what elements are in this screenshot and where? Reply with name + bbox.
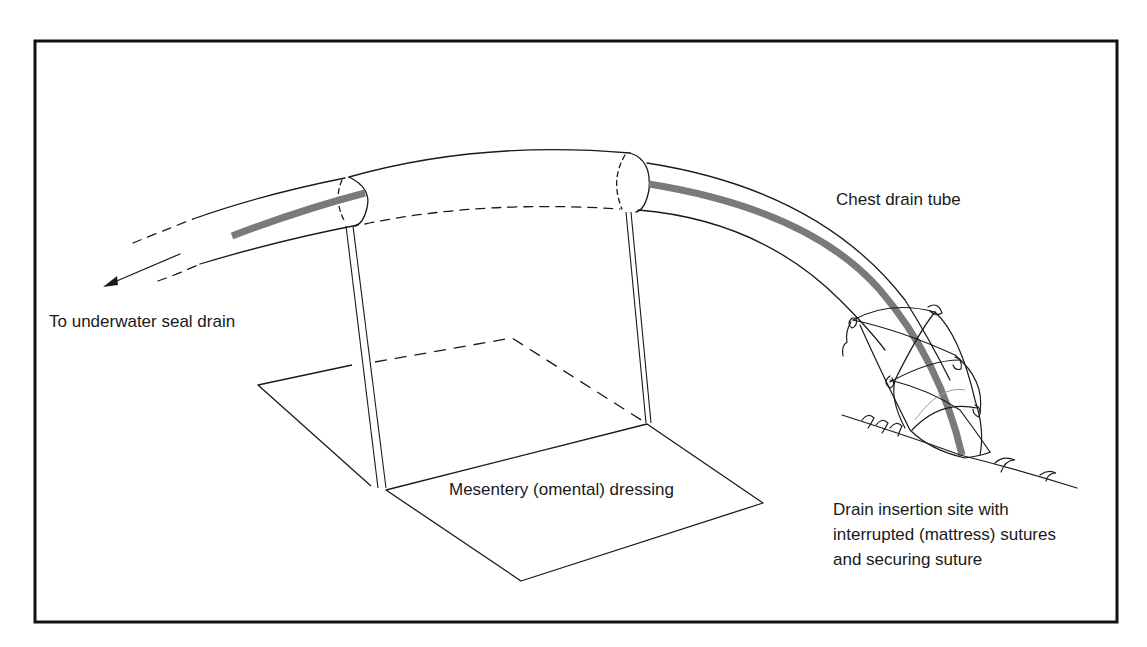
label-underwater-seal-drain: To underwater seal drain [49,311,235,332]
label-line: Drain insertion site with [833,497,1056,522]
suture-knot [928,305,942,315]
suture-loop [853,308,982,456]
sleeve-right-back-cap [617,155,625,209]
dressing-front-plane [386,424,763,581]
sleeve-right-front-cap [630,153,649,212]
label-line: interrupted (mattress) sutures [833,522,1056,547]
dressing-back-dashed [375,338,646,423]
label-chest-drain-tube: Chest drain tube [836,189,961,210]
support-right-a [626,212,646,423]
label-mesentery-dressing: Mesentery (omental) dressing [449,479,674,500]
support-left-a [346,226,378,488]
tube-left-bottom-dashed [158,264,200,281]
diagram-canvas: Chest drain tube To underwater seal drai… [0,0,1147,647]
tube-left-bottom-edge [200,225,358,264]
tube-core-right [649,184,962,455]
support-left-b [353,226,386,488]
sleeve-top-edge [349,150,630,177]
suture-loop [912,406,977,430]
label-drain-insertion-site: Drain insertion site with interrupted (m… [833,497,1056,572]
sleeve-bottom-dashed [365,207,620,224]
sleeve-left-front-cap [349,177,368,226]
suture-free-end [843,322,852,356]
flow-arrow-line [112,254,180,283]
dressing-left-flap [258,365,371,486]
arrow-head-icon [103,276,118,287]
support-right-b [631,212,651,423]
tube-core-left [232,193,365,236]
tube-left-top-dashed [133,219,193,243]
tube-left-top-edge [193,178,345,219]
label-line: and securing suture [833,547,1056,572]
